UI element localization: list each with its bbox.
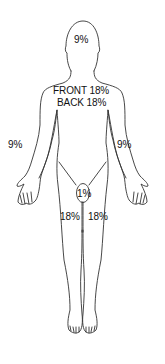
label-trunk-back: BACK 18% bbox=[57, 97, 106, 108]
body-outline bbox=[0, 0, 165, 364]
left-body-outline bbox=[17, 71, 82, 333]
body-diagram: 9% FRONT 18% BACK 18% 9% 9% 1% 18% 18% bbox=[0, 0, 165, 364]
right-body-outline bbox=[83, 71, 148, 333]
head-outline bbox=[65, 21, 99, 71]
left-inner-arm bbox=[39, 110, 57, 178]
label-head: 9% bbox=[74, 34, 88, 45]
groin-line-right bbox=[89, 162, 106, 185]
label-right-arm: 9% bbox=[8, 139, 22, 150]
left-fingers bbox=[20, 192, 32, 204]
label-trunk-front: FRONT 18% bbox=[53, 85, 109, 96]
label-right-leg: 18% bbox=[60, 211, 80, 222]
leg-divider bbox=[82, 202, 83, 232]
label-left-arm: 9% bbox=[117, 139, 131, 150]
groin-line-left bbox=[59, 162, 76, 185]
right-fingers bbox=[133, 192, 145, 204]
label-left-leg: 18% bbox=[88, 211, 108, 222]
label-genitals: 1% bbox=[77, 188, 91, 199]
